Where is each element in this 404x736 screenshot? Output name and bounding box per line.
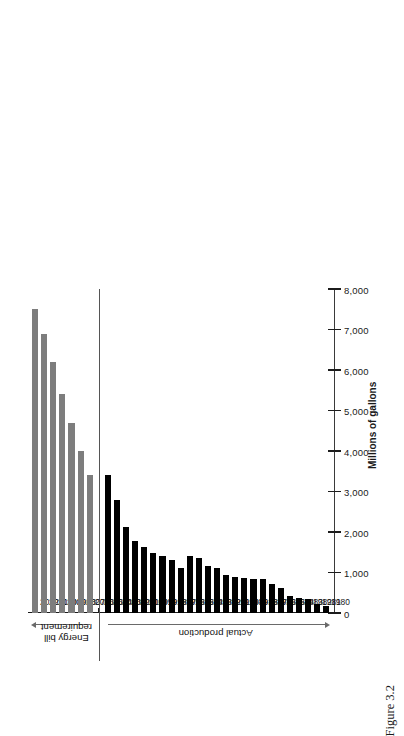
value-tick-label: 3,000 xyxy=(344,487,369,498)
bar-1997 xyxy=(169,560,175,613)
bar-2008 xyxy=(68,422,74,612)
bar-1986 xyxy=(269,584,275,613)
value-tick-label: 8,000 xyxy=(344,285,369,296)
bar-2006 xyxy=(87,475,93,613)
bar-2010 xyxy=(50,361,56,612)
bar-2003 xyxy=(114,499,120,612)
value-tick-label: 5,000 xyxy=(344,406,369,417)
bar-2011 xyxy=(41,333,47,612)
bar-1998 xyxy=(159,556,165,613)
group-divider xyxy=(99,289,100,661)
value-tick xyxy=(328,531,341,532)
value-tick-label: 0 xyxy=(344,609,349,620)
value-tick-label: 6,000 xyxy=(344,366,369,377)
bar-1994 xyxy=(196,558,202,613)
value-tick xyxy=(328,369,341,370)
bar-2002 xyxy=(123,526,129,612)
bar-1983 xyxy=(296,597,302,612)
bar-1995 xyxy=(187,556,193,613)
bar-2004 xyxy=(105,475,111,613)
bar-chart-plot-area: 01,0002,0003,0004,0005,0006,0007,0008,00… xyxy=(22,25,382,665)
annotation-line xyxy=(108,624,326,625)
bar-1988 xyxy=(250,579,256,613)
value-tick xyxy=(328,450,341,451)
value-tick-label: 4,000 xyxy=(344,447,369,458)
figure-caption: Figure 3.2 xyxy=(383,685,398,736)
value-axis-title: Millions of gallons xyxy=(367,381,378,468)
bar-2012 xyxy=(32,309,38,613)
year-label-1980: 1980 xyxy=(331,597,350,607)
value-tick-label: 2,000 xyxy=(344,528,369,539)
bar-1987 xyxy=(260,579,266,613)
value-tick-label: 7,000 xyxy=(344,325,369,336)
bar-1990 xyxy=(232,576,238,612)
bar-1984 xyxy=(287,595,293,612)
value-tick xyxy=(328,288,341,289)
value-tick xyxy=(328,328,341,329)
bar-2000 xyxy=(141,547,147,613)
value-tick-label: 1,000 xyxy=(344,568,369,579)
bar-1985 xyxy=(278,588,284,613)
bar-1980 xyxy=(323,605,329,612)
value-tick xyxy=(328,612,341,613)
bar-1982 xyxy=(305,598,311,612)
value-tick xyxy=(328,490,341,491)
bar-1996 xyxy=(178,568,184,613)
bar-1991 xyxy=(223,574,229,612)
bar-1993 xyxy=(205,566,211,613)
value-tick xyxy=(328,571,341,572)
bar-1992 xyxy=(214,568,220,613)
bar-2007 xyxy=(78,451,84,613)
bar-1989 xyxy=(241,577,247,612)
bar-1999 xyxy=(150,553,156,613)
annotation-label: Actual production xyxy=(87,627,345,638)
rotated-figure-canvas: 01,0002,0003,0004,0005,0006,0007,0008,00… xyxy=(22,25,382,665)
bar-2009 xyxy=(59,394,65,613)
bar-2001 xyxy=(132,541,138,613)
bar-1981 xyxy=(314,604,320,613)
value-tick xyxy=(328,409,341,410)
